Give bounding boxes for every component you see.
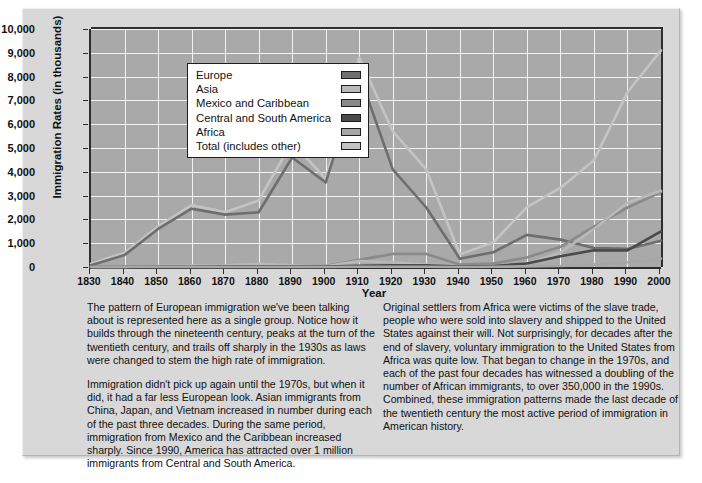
- y-tick-mark: [83, 172, 88, 173]
- x-tick-mark: [525, 269, 526, 274]
- legend-item[interactable]: Mexico and Caribbean: [196, 96, 361, 110]
- y-tick-mark: [83, 77, 88, 78]
- legend-item-label: Total (includes other): [196, 140, 301, 152]
- figure-panel: Immigration Rates (in thousands) EuropeA…: [22, 8, 680, 456]
- x-tick-mark: [357, 269, 358, 274]
- y-tick-label: 9,000: [7, 47, 35, 59]
- x-tick-mark: [190, 269, 191, 274]
- legend-item[interactable]: Europe: [196, 68, 361, 82]
- y-tick-mark: [83, 53, 88, 54]
- x-tick-mark: [290, 269, 291, 274]
- y-tick-label: 1,000: [7, 237, 35, 249]
- y-tick-mark: [83, 148, 88, 149]
- y-tick-mark: [83, 100, 88, 101]
- legend-swatch: [341, 114, 361, 122]
- y-tick-mark: [83, 29, 88, 30]
- legend-item-label: Mexico and Caribbean: [196, 97, 309, 109]
- y-tick-mark: [83, 124, 88, 125]
- chart-legend: EuropeAsiaMexico and CaribbeanCentral an…: [187, 63, 369, 158]
- x-tick-mark: [123, 269, 124, 274]
- legend-item[interactable]: Central and South America: [196, 111, 361, 125]
- legend-swatch: [341, 142, 361, 150]
- caption-right-paragraph: Original settlers from Africa were victi…: [383, 301, 683, 433]
- x-tick-label: 1900: [312, 275, 335, 287]
- legend-item-label: Central and South America: [196, 112, 331, 124]
- x-axis-label: Year: [89, 287, 659, 299]
- y-tick-label: 2,000: [7, 213, 35, 225]
- y-tick-label: 4,000: [7, 166, 35, 178]
- x-tick-mark: [257, 269, 258, 274]
- series-lines: [91, 29, 661, 267]
- y-tick-label: 0: [29, 261, 35, 273]
- y-tick-label: 7,000: [7, 94, 35, 106]
- x-tick-label: 1830: [77, 275, 100, 287]
- caption-left-paragraph: Immigration didn't pick up again until t…: [87, 378, 375, 470]
- x-tick-label: 2000: [647, 275, 670, 287]
- x-tick-mark: [592, 269, 593, 274]
- x-tick-mark: [223, 269, 224, 274]
- x-tick-mark: [391, 269, 392, 274]
- x-tick-label: 1930: [413, 275, 436, 287]
- y-axis-label: Immigration Rates (in thousands): [51, 0, 63, 217]
- x-tick-mark: [156, 269, 157, 274]
- y-tick-mark: [83, 196, 88, 197]
- legend-swatch: [341, 71, 361, 79]
- x-tick-label: 1850: [144, 275, 167, 287]
- legend-item[interactable]: Asia: [196, 82, 361, 96]
- legend-swatch: [341, 85, 361, 93]
- y-tick-mark: [83, 243, 88, 244]
- x-tick-label: 1950: [480, 275, 503, 287]
- caption-left-paragraph: The pattern of European immigration we'v…: [87, 301, 375, 367]
- x-tick-label: 1980: [580, 275, 603, 287]
- x-tick-label: 1990: [614, 275, 637, 287]
- legend-item-label: Asia: [196, 83, 218, 95]
- legend-item-label: Europe: [196, 69, 232, 81]
- y-tick-label: 3,000: [7, 190, 35, 202]
- x-tick-label: 1910: [346, 275, 369, 287]
- x-tick-label: 1880: [245, 275, 268, 287]
- caption-column-right: Original settlers from Africa were victi…: [383, 301, 683, 444]
- x-tick-mark: [458, 269, 459, 274]
- x-tick-mark: [89, 269, 90, 274]
- x-tick-mark: [424, 269, 425, 274]
- caption-block: The pattern of European immigration we'v…: [23, 301, 681, 451]
- series-line-mexico-and-caribbean: [91, 192, 661, 267]
- x-tick-label: 1920: [379, 275, 402, 287]
- x-tick-label: 1960: [513, 275, 536, 287]
- plot-area: EuropeAsiaMexico and CaribbeanCentral an…: [89, 29, 661, 269]
- legend-item[interactable]: Africa: [196, 125, 361, 139]
- y-tick-label: 10,000: [1, 23, 35, 35]
- x-tick-label: 1840: [111, 275, 134, 287]
- legend-item[interactable]: Total (includes other): [196, 139, 361, 153]
- x-tick-label: 1870: [211, 275, 234, 287]
- x-tick-label: 1860: [178, 275, 201, 287]
- y-tick-label: 8,000: [7, 71, 35, 83]
- y-tick-mark: [83, 267, 88, 268]
- x-tick-label: 1970: [547, 275, 570, 287]
- legend-swatch: [341, 99, 361, 107]
- y-tick-label: 5,000: [7, 142, 35, 154]
- chart: Immigration Rates (in thousands) EuropeA…: [23, 9, 681, 294]
- legend-swatch: [341, 128, 361, 136]
- x-tick-mark: [659, 269, 660, 274]
- series-line-total-includes-other: [91, 50, 661, 263]
- caption-column-left: The pattern of European immigration we'v…: [87, 301, 375, 481]
- y-tick-label: 6,000: [7, 118, 35, 130]
- y-tick-mark: [83, 219, 88, 220]
- figure-page: Immigration Rates (in thousands) EuropeA…: [0, 0, 702, 483]
- x-tick-label: 1940: [446, 275, 469, 287]
- x-tick-mark: [625, 269, 626, 274]
- x-tick-mark: [491, 269, 492, 274]
- legend-item-label: Africa: [196, 126, 225, 138]
- x-tick-label: 1890: [278, 275, 301, 287]
- x-tick-mark: [558, 269, 559, 274]
- x-tick-mark: [324, 269, 325, 274]
